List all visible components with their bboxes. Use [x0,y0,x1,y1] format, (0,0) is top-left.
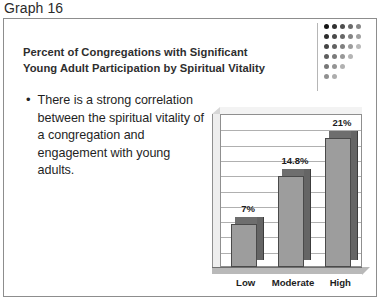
logo-dot [356,44,361,49]
logo-dot [340,54,345,59]
graph-caption: Graph 16 [4,0,63,16]
logo-dot [348,24,353,29]
plot-left-wall [212,114,220,267]
x-axis-labels: LowModerateHigh [212,277,370,293]
bar-side-face [304,169,311,260]
bullet-text: There is a strong correlation between th… [38,92,206,180]
bar-front-face [278,176,304,267]
logo-dot [324,44,329,49]
bar [231,224,257,267]
logo-dot [348,34,353,39]
logo-dot [332,74,337,79]
bar-value-label: 14.8% [282,155,309,166]
chart-floor-face [212,267,362,274]
logo-dot [340,64,345,69]
logo-dot [324,74,329,79]
logo-dot [324,64,329,69]
logo-dot [356,24,361,29]
dot-matrix-logo [317,21,369,93]
x-axis-label: Moderate [269,277,316,288]
logo-dot [332,34,337,39]
bar-value-label: 21% [332,117,351,128]
logo-dot [324,34,329,39]
bullet-marker-icon: • [26,91,38,109]
bar [278,176,304,267]
logo-divider-rule [317,23,318,91]
plot-top-wall [220,107,362,114]
bar-chart: 7%14.8%21% LowModerateHigh [212,107,370,285]
bar [325,138,351,267]
logo-dot [340,24,345,29]
plot-wall-corner [212,107,220,114]
bar-front-face [231,224,257,267]
logo-dot [332,54,337,59]
bar-front-face [325,138,351,267]
chart-floor [212,267,370,276]
logo-dot [356,34,361,39]
x-axis-label: High [317,277,364,288]
heading-line-1: Percent of Congregations with Significan… [23,45,313,61]
dot-grid [324,24,368,90]
bar-side-face [257,217,264,260]
logo-dot [332,24,337,29]
logo-dot [332,64,337,69]
heading-line-2: Young Adult Participation by Spiritual V… [23,61,313,77]
logo-dot [340,34,345,39]
bar-side-face [351,131,358,260]
chart-floor-wedge [362,267,370,275]
logo-dot [340,44,345,49]
bar-value-label: 7% [241,203,255,214]
logo-dot [348,44,353,49]
logo-dot [332,44,337,49]
logo-dot [348,54,353,59]
logo-dot [324,54,329,59]
logo-dot [324,24,329,29]
slide-heading: Percent of Congregations with Significan… [23,45,313,76]
slide-container: Percent of Congregations with Significan… [3,18,377,297]
x-axis-label: Low [222,277,269,288]
bullet-item: • There is a strong correlation between … [26,92,206,180]
